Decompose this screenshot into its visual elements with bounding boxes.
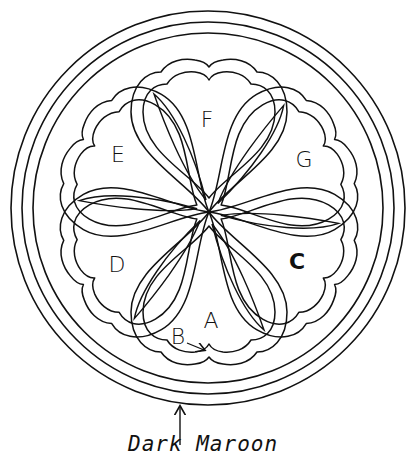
heart-outer-edge bbox=[131, 59, 287, 212]
label-a: A bbox=[203, 310, 218, 332]
label-g: G bbox=[295, 149, 312, 171]
heart-inner-edge bbox=[143, 226, 275, 352]
ribbon-heart-5 bbox=[38, 68, 248, 279]
ribbon-heart-1 bbox=[170, 68, 380, 279]
heart-inner-edge bbox=[143, 72, 275, 198]
label-f: F bbox=[201, 109, 214, 131]
label-c: C bbox=[289, 251, 305, 273]
ribbon-heart-3 bbox=[131, 212, 287, 365]
label-d: D bbox=[109, 254, 126, 276]
label-e: E bbox=[111, 144, 125, 166]
caption-dark-maroon: Dark Maroon bbox=[128, 432, 278, 456]
ribbon-heart-0 bbox=[131, 59, 287, 212]
label-b: B bbox=[171, 326, 185, 348]
heart-outer-edge bbox=[131, 212, 287, 365]
b-pointer-arrow bbox=[187, 343, 204, 350]
ribbon-heart-2 bbox=[170, 144, 380, 355]
medallion-drawing bbox=[0, 0, 419, 462]
